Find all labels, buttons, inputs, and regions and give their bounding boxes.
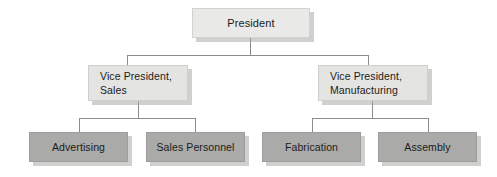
connector-vice-president-bar	[127, 55, 369, 56]
node-president: President	[192, 8, 310, 38]
node-president-label: President	[227, 17, 274, 29]
node-fabrication-label: Fabrication	[285, 141, 338, 153]
node-vice-president-sales: Vice President, Sales	[88, 65, 188, 101]
connector-to-vp-sales	[127, 55, 128, 65]
connector-vp-sales-drop	[138, 101, 139, 118]
organization-chart: President Vice President, Sales Vice Pre…	[0, 0, 497, 177]
node-advertising: Advertising	[29, 132, 128, 162]
connector-manufacturing-bar	[312, 118, 429, 119]
connector-sales-bar	[79, 118, 196, 119]
node-sales-personnel: Sales Personnel	[146, 132, 245, 162]
node-vice-president-manufacturing: Vice President, Manufacturing	[318, 65, 428, 101]
node-vice-president-manufacturing-label: Vice President, Manufacturing	[330, 69, 402, 97]
node-assembly-label: Assembly	[404, 141, 450, 153]
node-assembly: Assembly	[378, 132, 477, 162]
connector-president-drop	[250, 38, 251, 56]
node-vice-president-sales-label: Vice President, Sales	[100, 69, 172, 97]
connector-to-advertising	[79, 118, 80, 132]
connector-to-vp-manufacturing	[368, 55, 369, 65]
connector-to-sales-personnel	[195, 118, 196, 132]
connector-to-assembly	[428, 118, 429, 132]
node-advertising-label: Advertising	[52, 141, 105, 153]
connector-to-fabrication	[312, 118, 313, 132]
node-sales-personnel-label: Sales Personnel	[157, 141, 235, 153]
node-fabrication: Fabrication	[262, 132, 361, 162]
connector-vp-manufacturing-drop	[372, 101, 373, 118]
